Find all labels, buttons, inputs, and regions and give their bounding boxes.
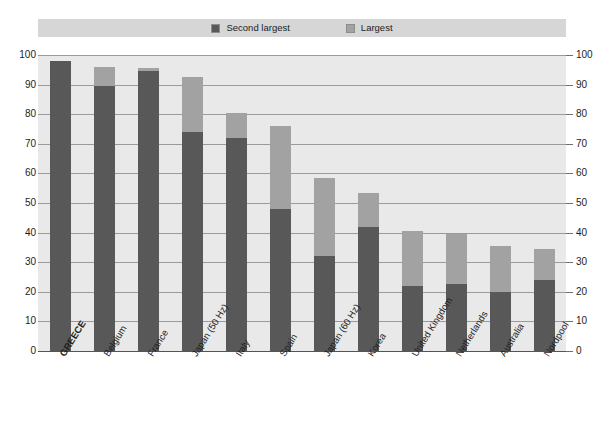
y-axis-tick-label-left: 10	[12, 316, 36, 326]
y-axis-tick-label-left: 70	[12, 139, 36, 149]
bar-segment-largest[interactable]	[402, 231, 423, 286]
bar-segment-largest[interactable]	[446, 234, 467, 284]
y-axis-tick-mark	[566, 292, 573, 293]
bar-segment-largest[interactable]	[314, 178, 335, 256]
y-axis-tick-label-right: 90	[576, 80, 602, 90]
legend-item-largest: Largest	[346, 23, 393, 33]
chart-legend: Second largest Largest	[38, 19, 566, 37]
bar-group[interactable]	[94, 55, 115, 351]
bar-segment-second-largest[interactable]	[182, 132, 203, 351]
bar-group[interactable]	[534, 55, 555, 351]
y-axis-tick-mark	[566, 262, 573, 263]
bar-segment-second-largest[interactable]	[226, 138, 247, 351]
bar-segment-second-largest[interactable]	[358, 227, 379, 351]
y-axis-tick-mark	[566, 173, 573, 174]
y-axis-tick-label-left: 80	[12, 109, 36, 119]
y-axis-tick-label-right: 50	[576, 198, 602, 208]
y-axis-tick-label-right: 10	[576, 316, 602, 326]
y-axis-tick-label-right: 40	[576, 228, 602, 238]
bar-segment-largest[interactable]	[358, 193, 379, 227]
bar-segment-largest[interactable]	[182, 77, 203, 132]
bar-segment-largest[interactable]	[94, 67, 115, 86]
bar-group[interactable]	[314, 55, 335, 351]
y-axis-tick-label-left: 90	[12, 80, 36, 90]
y-axis-tick-label-left: 20	[12, 287, 36, 297]
bar-segment-second-largest[interactable]	[50, 61, 71, 351]
bar-group[interactable]	[138, 55, 159, 351]
y-axis-tick-label-right: 70	[576, 139, 602, 149]
bar-segment-largest[interactable]	[226, 113, 247, 138]
legend-label-second-largest: Second largest	[226, 23, 289, 33]
y-axis-tick-mark	[566, 144, 573, 145]
x-axis-line	[38, 351, 566, 352]
y-axis-tick-label-right: 80	[576, 109, 602, 119]
bar-segment-second-largest[interactable]	[138, 71, 159, 351]
plot-top-rule	[38, 55, 566, 56]
legend-item-second-largest: Second largest	[211, 23, 289, 33]
bar-group[interactable]	[50, 55, 71, 351]
y-axis-tick-label-right: 20	[576, 287, 602, 297]
bar-group[interactable]	[490, 55, 511, 351]
y-axis-tick-label-left: 40	[12, 228, 36, 238]
y-axis-tick-mark	[566, 233, 573, 234]
y-axis-tick-mark	[566, 55, 573, 56]
x-axis-labels: GREECEBelgiumFranceJapan (50 Hz)ItalySpa…	[0, 353, 610, 440]
bar-group[interactable]	[402, 55, 423, 351]
y-axis-tick-mark	[566, 85, 573, 86]
bar-segment-largest[interactable]	[534, 249, 555, 280]
y-axis-tick-label-right: 30	[576, 257, 602, 267]
y-axis-tick-label-right: 60	[576, 168, 602, 178]
y-axis-tick-label-left: 30	[12, 257, 36, 267]
y-axis-tick-mark	[566, 203, 573, 204]
plot-area	[38, 55, 566, 351]
y-axis-tick-label-left: 50	[12, 198, 36, 208]
bar-segment-largest[interactable]	[270, 126, 291, 209]
bars-layer	[38, 55, 566, 351]
legend-swatch-largest-icon	[346, 24, 355, 33]
bar-segment-second-largest[interactable]	[270, 209, 291, 351]
y-axis-tick-label-left: 60	[12, 168, 36, 178]
bar-segment-largest[interactable]	[138, 68, 159, 71]
bar-segment-second-largest[interactable]	[94, 86, 115, 351]
bar-segment-largest[interactable]	[490, 246, 511, 292]
y-axis-tick-mark	[566, 114, 573, 115]
bar-group[interactable]	[270, 55, 291, 351]
y-axis-tick-label-right: 100	[576, 50, 602, 60]
stacked-bar-chart: Second largest Largest 00101020203030404…	[0, 0, 610, 440]
y-axis-tick-mark	[566, 351, 573, 352]
bar-group[interactable]	[182, 55, 203, 351]
legend-label-largest: Largest	[361, 23, 393, 33]
legend-swatch-second-largest-icon	[211, 24, 220, 33]
y-axis-tick-label-left: 100	[12, 50, 36, 60]
